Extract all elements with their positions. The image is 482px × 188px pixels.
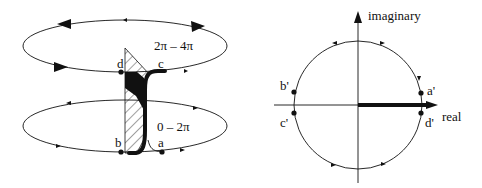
label-a-prime: a' <box>427 83 435 98</box>
label-a: a <box>158 135 164 150</box>
arrow-right-icon <box>184 69 188 73</box>
point-d-prime <box>418 110 423 115</box>
arrow-left-icon <box>332 41 337 45</box>
arrow-right-icon <box>54 62 68 72</box>
arrow-up-icon <box>417 76 421 81</box>
figure: d c b a 2π – 4π 0 – 2π b' c' <box>0 0 482 188</box>
point-b <box>118 149 123 154</box>
arrow-right-icon <box>56 144 61 148</box>
imaginary-axis-label: imaginary <box>368 8 421 23</box>
point-b-prime <box>291 89 296 94</box>
left-diagram: d c b a 2π – 4π 0 – 2π <box>23 18 227 155</box>
arrow-left-icon <box>191 21 205 32</box>
lower-loop-range-label: 0 – 2π <box>157 119 190 134</box>
point-a <box>159 149 164 154</box>
label-d: d <box>117 56 124 71</box>
arrow-right-icon <box>180 148 185 152</box>
arrow-left-icon <box>123 18 127 22</box>
label-d-prime: d' <box>425 115 434 130</box>
arrow-right-icon <box>331 163 336 167</box>
right-diagram: b' c' a' d' imaginary real <box>274 8 462 183</box>
point-c-prime <box>291 110 296 115</box>
label-b: b <box>115 135 122 150</box>
upper-loop-range-label: 2π – 4π <box>154 38 194 53</box>
imaginary-axis-arrow-icon <box>354 11 362 23</box>
label-c: c <box>158 56 164 71</box>
real-axis-label: real <box>442 109 462 124</box>
positive-real-thick-arrow <box>358 103 428 107</box>
real-axis-arrow-icon <box>426 101 438 109</box>
arrow-left-icon <box>380 41 385 45</box>
arrow-left-icon <box>57 19 71 29</box>
label-c-prime: c' <box>280 115 288 130</box>
arrow-right-icon <box>193 106 198 110</box>
point-a-prime <box>418 90 423 95</box>
label-b-prime: b' <box>280 78 289 93</box>
